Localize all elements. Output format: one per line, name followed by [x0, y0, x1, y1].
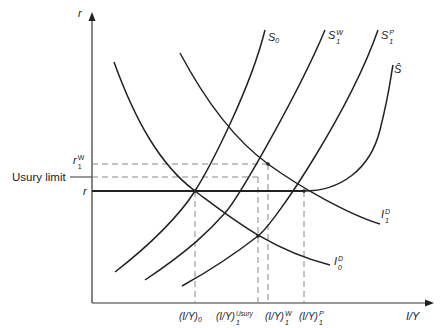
- r1w-label: rW1: [73, 155, 91, 166]
- S0-label: S0: [268, 32, 279, 46]
- Shat-label: Ŝ: [394, 64, 401, 75]
- xtick-iy0: (I/Y)0: [179, 311, 202, 325]
- xtick-iy-p: (I/Y)P1: [299, 311, 332, 322]
- S1W-label: SW1: [328, 30, 349, 41]
- y-axis-arrow-icon: [89, 12, 96, 21]
- x-axis-label: I/Y: [406, 311, 419, 322]
- point-eqUsury: [256, 234, 260, 238]
- xtick-iy-usury: (I/Y)Usury1: [216, 311, 257, 322]
- y-axis-label: r: [78, 8, 82, 19]
- diagram-canvas: [0, 0, 443, 328]
- r-label: r: [83, 186, 87, 197]
- curve-S0: [115, 30, 265, 272]
- S1P-label: SP1: [381, 30, 402, 41]
- curve-S1W: [145, 30, 325, 280]
- point-eqW: [266, 162, 270, 166]
- point-eq0: [193, 189, 197, 193]
- x-axis-arrow-icon: [425, 300, 434, 307]
- point-eqP: [302, 189, 306, 193]
- usury-limit-label: Usury limit: [12, 172, 66, 183]
- I0D-label: ID0: [334, 256, 351, 267]
- curve-Shat: [304, 65, 393, 191]
- xtick-iy-w: (I/Y)W1: [265, 311, 298, 322]
- curve-I1D: [180, 53, 380, 224]
- I1D-label: ID1: [381, 209, 398, 220]
